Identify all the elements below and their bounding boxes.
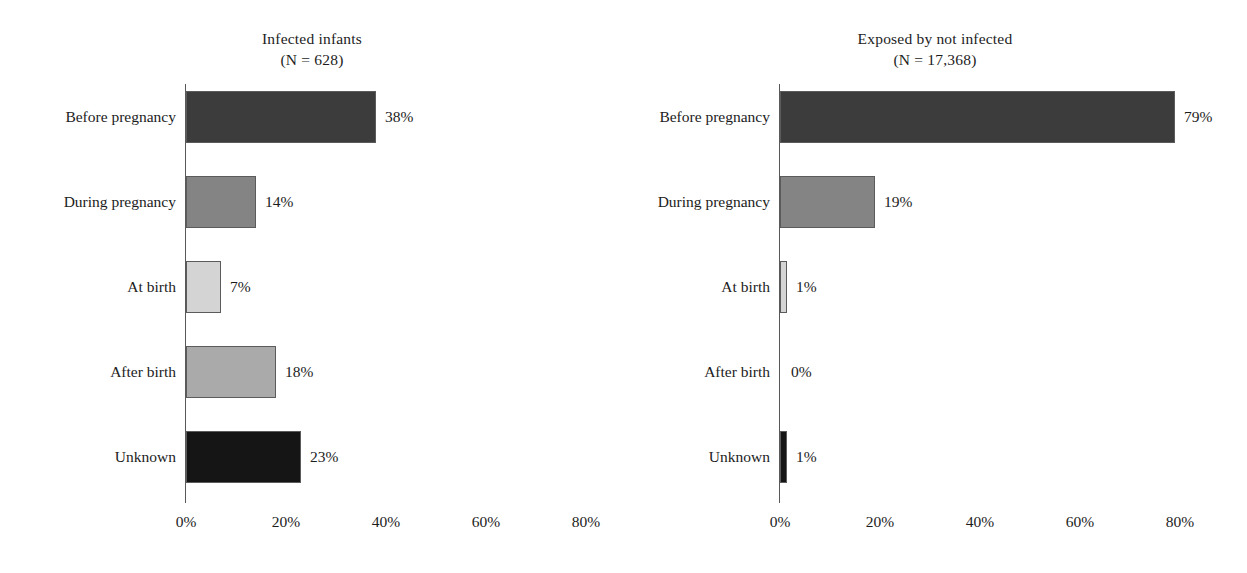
plot-area-right: Before pregnancy 79% During pregnancy 19… <box>779 84 1209 503</box>
panel-right-subtitle-text: (N = 17,368) <box>623 49 1247 70</box>
bar-row: Unknown 23% <box>185 431 615 483</box>
panel-left-title-text: Infected infants <box>0 28 624 49</box>
x-tick-label: 0% <box>176 513 197 531</box>
x-axis-right: 0% 20% 40% 60% 80% <box>779 503 1209 543</box>
x-tick-label: 60% <box>472 513 500 531</box>
x-tick-label: 40% <box>372 513 400 531</box>
bar <box>186 346 276 398</box>
figure-caption <box>0 556 1247 573</box>
value-label: 19% <box>884 176 912 228</box>
x-tick-label: 0% <box>770 513 791 531</box>
category-label: Before pregnancy <box>65 91 176 143</box>
bar-row: During pregnancy 14% <box>185 176 615 228</box>
category-label: During pregnancy <box>658 176 770 228</box>
value-label: 1% <box>796 431 817 483</box>
value-label: 79% <box>1184 91 1212 143</box>
category-label: At birth <box>127 261 176 313</box>
panels-container: Infected infants (N = 628) Before pregna… <box>0 0 1247 545</box>
x-tick-label: 20% <box>272 513 300 531</box>
figure: Infected infants (N = 628) Before pregna… <box>0 0 1247 573</box>
panel-left-title: Infected infants (N = 628) <box>0 28 624 70</box>
category-label: At birth <box>721 261 770 313</box>
value-label: 18% <box>285 346 313 398</box>
bar-row: After birth 18% <box>185 346 615 398</box>
panel-exposed-not-infected: Exposed by not infected (N = 17,368) Bef… <box>623 0 1247 545</box>
plot-area-left: Before pregnancy 38% During pregnancy 14… <box>185 84 615 503</box>
category-label: After birth <box>704 346 770 398</box>
bar-row: After birth 0% <box>779 346 1209 398</box>
bar <box>780 261 787 313</box>
x-axis-left: 0% 20% 40% 60% 80% <box>185 503 615 543</box>
value-label: 1% <box>796 261 817 313</box>
bar-row: During pregnancy 19% <box>779 176 1209 228</box>
x-tick-label: 20% <box>866 513 894 531</box>
value-label: 14% <box>265 176 293 228</box>
value-label: 23% <box>310 431 338 483</box>
bar <box>186 431 301 483</box>
value-label: 38% <box>385 91 413 143</box>
value-label: 0% <box>791 346 812 398</box>
x-tick-label: 60% <box>1066 513 1094 531</box>
bar <box>780 91 1175 143</box>
category-label: Before pregnancy <box>659 91 770 143</box>
bar-row: Before pregnancy 38% <box>185 91 615 143</box>
bar <box>780 431 787 483</box>
category-label: During pregnancy <box>64 176 176 228</box>
category-label: After birth <box>110 346 176 398</box>
value-label: 7% <box>230 261 251 313</box>
bar <box>186 176 256 228</box>
bar <box>780 176 875 228</box>
bar-row: Unknown 1% <box>779 431 1209 483</box>
bar-row: At birth 7% <box>185 261 615 313</box>
x-tick-label: 80% <box>572 513 600 531</box>
panel-right-title: Exposed by not infected (N = 17,368) <box>623 28 1247 70</box>
panel-right-title-text: Exposed by not infected <box>623 28 1247 49</box>
bar-row: At birth 1% <box>779 261 1209 313</box>
panel-infected-infants: Infected infants (N = 628) Before pregna… <box>0 0 624 545</box>
bar <box>186 91 376 143</box>
panel-left-subtitle-text: (N = 628) <box>0 49 624 70</box>
category-label: Unknown <box>709 431 770 483</box>
x-tick-label: 80% <box>1166 513 1194 531</box>
bar <box>186 261 221 313</box>
bar-row: Before pregnancy 79% <box>779 91 1209 143</box>
category-label: Unknown <box>115 431 176 483</box>
x-tick-label: 40% <box>966 513 994 531</box>
